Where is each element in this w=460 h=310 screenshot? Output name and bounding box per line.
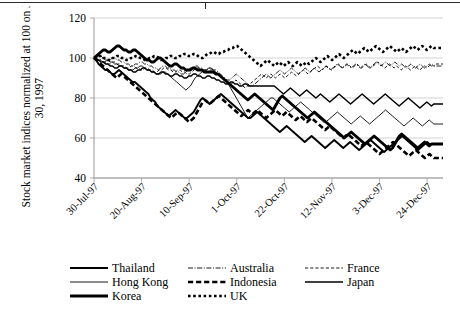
y-axis-tick-labels: 406080100120 xyxy=(69,12,87,184)
x-tick-label: 10-Sep-97 xyxy=(157,181,196,220)
legend-label-korea: Korea xyxy=(112,289,142,303)
x-tick-label: 30-Jul-97 xyxy=(64,181,100,217)
chart-figure: 406080100120 30-Jul-9720-Aug-9710-Sep-97… xyxy=(0,6,460,310)
y-axis-title-line: 30, 1997 xyxy=(33,78,46,119)
x-axis-tick-labels: 30-Jul-9720-Aug-9710-Sep-971-Oct-9722-Oc… xyxy=(64,181,433,221)
y-tick-label: 40 xyxy=(75,172,87,184)
y-tick-label: 60 xyxy=(75,132,87,144)
figure-page: 406080100120 30-Jul-9720-Aug-9710-Sep-97… xyxy=(0,0,460,310)
legend-label-thailand: Thailand xyxy=(112,261,155,275)
legend-label-france: France xyxy=(347,261,380,275)
y-tick-label: 80 xyxy=(75,92,87,104)
series-line-uk xyxy=(94,46,443,66)
x-tick-label: 24-Dec-97 xyxy=(394,181,434,221)
y-axis-title-line: Stock market indices normalized at 100 o… xyxy=(20,6,33,207)
line-chart: 406080100120 30-Jul-9720-Aug-9710-Sep-97… xyxy=(0,6,460,306)
axes-group xyxy=(90,18,443,182)
x-tick-label: 3-Dec-97 xyxy=(350,181,386,217)
legend-label-australia: Australia xyxy=(230,261,275,275)
x-tick-label: 1-Oct-97 xyxy=(209,181,244,216)
y-axis-title: Stock market indices normalized at 100 o… xyxy=(20,6,46,207)
series-group xyxy=(94,46,443,158)
legend-label-uk: UK xyxy=(230,289,248,303)
legend-label-hong-kong: Hong Kong xyxy=(112,275,168,289)
y-tick-label: 100 xyxy=(69,52,87,64)
chart-legend: ThailandHong KongKoreaAustraliaIndonesia… xyxy=(70,261,380,303)
page-top-divider xyxy=(0,2,460,3)
series-line-indonesia xyxy=(94,58,443,158)
legend-label-japan: Japan xyxy=(347,275,374,289)
x-tick-label: 22-Oct-97 xyxy=(252,181,290,219)
x-tick-label: 20-Aug-97 xyxy=(108,181,148,221)
legend-label-indonesia: Indonesia xyxy=(230,275,277,289)
x-tick-label: 12-Nov-97 xyxy=(298,181,338,221)
y-tick-label: 120 xyxy=(69,12,87,24)
